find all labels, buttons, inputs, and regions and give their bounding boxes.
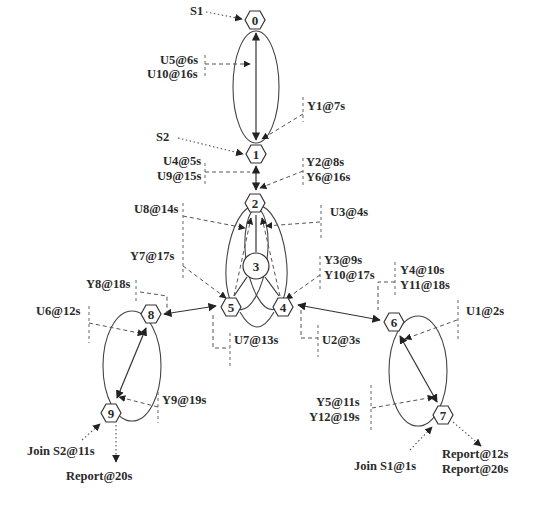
label-y12: Y12@19s: [309, 410, 360, 424]
s1-pointer: [206, 12, 242, 19]
label-s2: S2: [156, 130, 169, 144]
node-5-label: 5: [228, 300, 235, 315]
node-7: 7: [433, 406, 453, 424]
join-s2-pointer: [82, 424, 100, 440]
node-2-label: 2: [252, 196, 259, 211]
u8-message: [183, 216, 245, 228]
label-y10: Y10@17s: [324, 268, 375, 282]
edge-8-9: [117, 328, 146, 398]
label-u1: U1@2s: [466, 304, 504, 318]
label-u4: U4@5s: [163, 154, 201, 168]
label-report-9: Report@20s: [66, 469, 133, 483]
node-4-label: 4: [280, 300, 287, 315]
label-y7: Y7@17s: [130, 249, 174, 263]
label-u5: U5@6s: [160, 53, 198, 67]
label-y4: Y4@10s: [400, 263, 444, 277]
y7-message: [183, 266, 226, 298]
label-y1: Y1@7s: [307, 99, 345, 113]
edge-6-7: [400, 336, 437, 402]
y3-message: [286, 275, 320, 299]
label-report-7a: Report@12s: [442, 447, 509, 461]
node-4: 4: [273, 298, 293, 316]
node-9: 9: [101, 404, 121, 422]
node-0: 0: [245, 11, 265, 29]
node-8-label: 8: [148, 307, 155, 322]
label-u8: U8@14s: [134, 202, 178, 216]
label-join-s2: Join S2@11s: [27, 444, 95, 458]
label-u2: U2@3s: [322, 333, 360, 347]
node-6: 6: [384, 313, 404, 331]
node-1-label: 1: [253, 147, 260, 162]
node-3: 3: [243, 253, 269, 279]
label-y6: Y6@16s: [306, 170, 350, 184]
label-u10: U10@16s: [147, 67, 198, 81]
u1-message: [405, 320, 457, 339]
label-u3: U3@4s: [330, 205, 368, 219]
label-y9: Y9@19s: [162, 393, 206, 407]
label-u9: U9@15s: [157, 169, 201, 183]
y5-message: [372, 397, 434, 408]
node-1: 1: [246, 145, 266, 163]
report-7-pointer: [453, 422, 481, 446]
label-y2: Y2@8s: [306, 155, 344, 169]
node-2: 2: [245, 194, 265, 212]
node-0-label: 0: [252, 13, 259, 28]
edge-8-5: [164, 306, 216, 314]
node-7-label: 7: [440, 408, 447, 423]
label-u7: U7@13s: [234, 333, 278, 347]
label-s1: S1: [190, 4, 203, 18]
node-6-label: 6: [391, 315, 398, 330]
node-9-label: 9: [108, 406, 115, 421]
node-8: 8: [141, 305, 161, 323]
label-join-s1: Join S1@1s: [354, 459, 416, 473]
node-5: 5: [221, 298, 241, 316]
u3-message: [266, 222, 320, 226]
label-y11: Y11@18s: [400, 278, 450, 292]
cluster-4-5-arc: [240, 312, 274, 327]
y2-message: [260, 171, 303, 188]
u6-message: [89, 323, 144, 334]
s2-pointer: [178, 138, 243, 154]
join-s1-pointer: [410, 427, 432, 450]
u7-message: [213, 315, 230, 348]
edge-4-6: [298, 305, 380, 320]
label-y3: Y3@9s: [324, 253, 362, 267]
edge-3-4: [265, 277, 279, 296]
node-3-label: 3: [253, 259, 260, 274]
y4-message: [378, 282, 395, 310]
network-diagram: 0 1 2 3 4 5 6 7 8 9 S1 U5@6s U10@16s Y1@…: [0, 0, 541, 507]
label-u6: U6@12s: [36, 304, 80, 318]
label-report-7b: Report@20s: [442, 462, 509, 476]
u2-message: [301, 310, 318, 338]
label-y5: Y5@11s: [316, 395, 360, 409]
label-y8: Y8@18s: [86, 277, 130, 291]
